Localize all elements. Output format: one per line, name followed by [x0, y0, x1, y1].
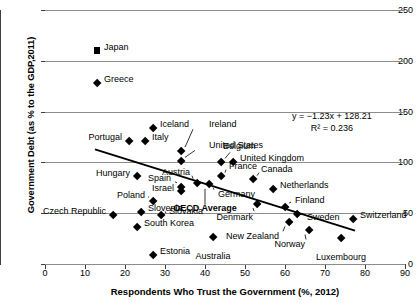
x-tick-label: 90 [390, 268, 418, 278]
x-tick-label: 10 [70, 268, 100, 278]
regression-equation-annotation: y = −1.23x + 128.21 R² = 0.236 [292, 110, 372, 134]
equation-line: y = −1.23x + 128.21 [292, 110, 372, 122]
r-squared-line: R² = 0.236 [292, 122, 372, 134]
x-tick-mark [125, 265, 126, 269]
diamond-marker-icon [252, 200, 261, 209]
diamond-marker-icon [148, 250, 157, 259]
diamond-marker-icon [204, 179, 213, 188]
gridline [45, 213, 405, 214]
diamond-marker-icon [140, 137, 149, 146]
gridline [45, 61, 405, 62]
x-tick-mark [405, 265, 406, 269]
x-tick-label: 80 [350, 268, 380, 278]
diamond-marker-icon [228, 158, 237, 167]
diamond-marker-icon [176, 147, 185, 156]
diamond-marker-icon [216, 158, 225, 167]
square-marker-icon [94, 47, 101, 54]
diamond-marker-icon [132, 172, 141, 181]
x-tick-label: 50 [230, 268, 260, 278]
diamond-marker-icon [148, 196, 157, 205]
diamond-marker-icon [136, 208, 145, 217]
x-tick-mark [325, 265, 326, 269]
y-axis-title: Government Debt (as % to the GDP,2011) [26, 0, 36, 250]
diamond-marker-icon [176, 157, 185, 166]
x-tick-mark [245, 265, 246, 269]
diamond-marker-icon [248, 175, 257, 184]
diamond-marker-icon [132, 223, 141, 232]
diamond-marker-icon [348, 215, 357, 224]
x-tick-mark [285, 265, 286, 269]
x-tick-mark [85, 265, 86, 269]
x-tick-label: 40 [190, 268, 220, 278]
diamond-marker-icon [284, 218, 293, 227]
diamond-marker-icon [148, 123, 157, 132]
diamond-marker-icon [280, 203, 289, 212]
diamond-marker-icon [108, 211, 117, 220]
x-tick-mark [205, 265, 206, 269]
x-tick-mark [45, 265, 46, 269]
diamond-marker-icon [336, 234, 345, 243]
x-tick-label: 60 [270, 268, 300, 278]
diamond-marker-icon [304, 226, 313, 235]
x-tick-label: 70 [310, 268, 340, 278]
y-axis-line [0, 10, 1, 265]
diamond-marker-icon [156, 211, 165, 220]
x-tick-label: 30 [150, 268, 180, 278]
plot-area [45, 10, 405, 264]
gridline [45, 264, 405, 265]
diamond-marker-icon [192, 178, 201, 187]
diamond-marker-icon [292, 210, 301, 219]
x-tick-label: 20 [110, 268, 140, 278]
diamond-marker-icon [216, 172, 225, 181]
x-tick-label: 0 [30, 268, 60, 278]
diamond-marker-icon [124, 137, 133, 146]
diamond-marker-icon [268, 184, 277, 193]
x-axis-title: Respondents Who Trust the Government (%,… [45, 286, 405, 297]
diamond-marker-icon [208, 233, 217, 242]
gridline [45, 10, 405, 11]
x-tick-mark [165, 265, 166, 269]
x-tick-mark [365, 265, 366, 269]
diamond-marker-icon [92, 79, 101, 88]
